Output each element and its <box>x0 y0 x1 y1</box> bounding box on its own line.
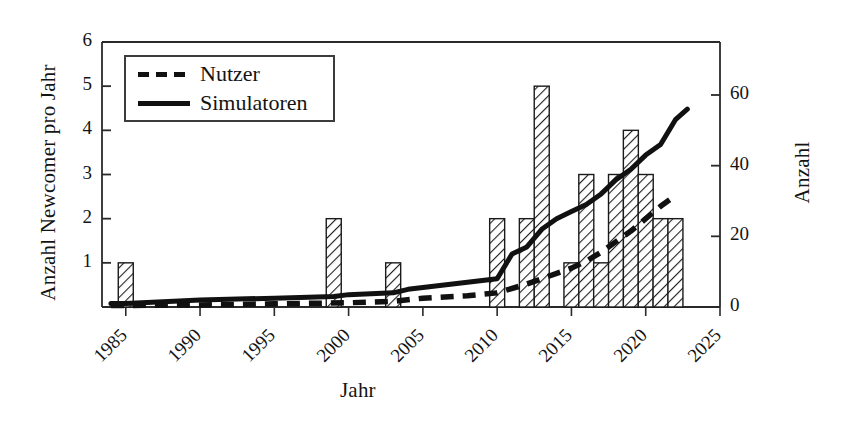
legend-label-simulatoren: Simulatoren <box>200 92 308 114</box>
legend-item-simulatoren: Simulatoren <box>136 89 308 117</box>
chart-legend: Nutzer Simulatoren <box>124 55 335 122</box>
dashed-line-swatch-icon <box>136 67 192 81</box>
y-tick-label-left: 5 <box>56 73 92 95</box>
y-tick-label-left: 1 <box>56 250 92 272</box>
bar <box>118 263 133 307</box>
bar <box>623 130 638 307</box>
bar <box>594 263 609 307</box>
legend-label-nutzer: Nutzer <box>200 63 260 85</box>
bar <box>668 219 683 307</box>
bar <box>638 175 653 308</box>
y-tick-label-right: 0 <box>730 294 770 316</box>
bar <box>653 219 668 307</box>
y-tick-label-right: 40 <box>730 153 770 175</box>
y-tick-label-right: 60 <box>730 82 770 104</box>
chart-figure: Anzahl Newcomer pro Jahr Anzahl Jahr 123… <box>0 0 859 423</box>
bar <box>534 86 549 307</box>
solid-line-swatch-icon <box>136 96 192 110</box>
bar <box>579 175 594 308</box>
y-tick-label-left: 2 <box>56 206 92 228</box>
y-axis-right-title: Anzahl <box>790 113 815 233</box>
y-tick-label-left: 3 <box>56 162 92 184</box>
x-axis-title: Jahr <box>340 378 376 403</box>
bar <box>519 219 534 307</box>
legend-item-nutzer: Nutzer <box>136 60 260 88</box>
y-tick-label-left: 6 <box>56 29 92 51</box>
y-tick-label-right: 20 <box>730 223 770 245</box>
y-tick-label-left: 4 <box>56 117 92 139</box>
